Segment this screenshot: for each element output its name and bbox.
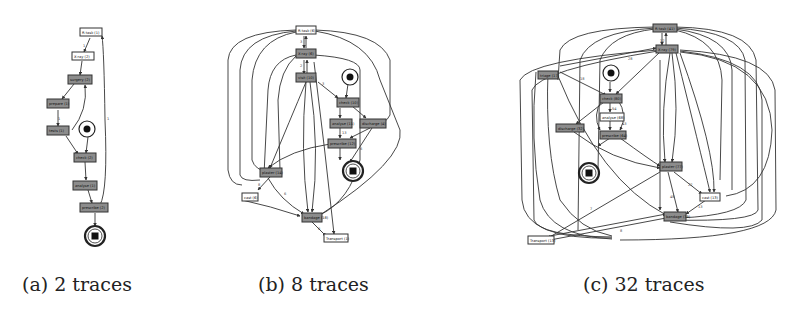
process-graph-a: 1 1 1 R-task (1) X-ray (2) surgery (2) p… <box>0 0 200 260</box>
svg-text:8: 8 <box>620 229 622 233</box>
svg-text:1: 1 <box>107 117 109 121</box>
node-b-8-label: cast (6) <box>244 196 258 200</box>
svg-text:12: 12 <box>660 39 664 43</box>
svg-text:43: 43 <box>622 122 626 126</box>
process-graph-b: 3 2 3 13 6 8 6 6 R-task (6) X-ray (6) vi… <box>200 0 460 260</box>
svg-text:3: 3 <box>322 82 324 86</box>
start-place-icon <box>603 65 619 81</box>
node-b-0-label: R-task (6) <box>298 29 316 33</box>
node-c-0-label: R-task (41) <box>655 27 675 31</box>
end-place-icon <box>343 161 363 181</box>
caption-c: (c) 32 traces <box>583 273 704 295</box>
node-a-6-label: analyse (1) <box>75 184 96 188</box>
node-a-5-label: check (2) <box>76 156 93 160</box>
svg-text:2: 2 <box>300 64 302 68</box>
node-c-2-label: triage (17) <box>540 74 560 78</box>
node-b-6-label: prescribe (12) <box>330 142 356 146</box>
node-c-3-label: check (80) <box>602 97 622 101</box>
svg-text:22: 22 <box>688 183 692 187</box>
node-c-8-label: cast (13) <box>702 196 719 200</box>
panel-b: 3 2 3 13 6 8 6 6 R-task (6) X-ray (6) vi… <box>200 0 460 319</box>
svg-text:6: 6 <box>284 192 286 196</box>
svg-text:28: 28 <box>628 57 632 61</box>
node-b-10-label: Transport (1) <box>325 237 350 241</box>
svg-text:18: 18 <box>580 77 584 81</box>
node-a-2-label: surgery (2) <box>70 78 90 82</box>
caption-b: (b) 8 traces <box>258 273 369 295</box>
node-b-5-label: discharge (4) <box>362 122 386 126</box>
end-place-icon <box>85 226 105 246</box>
node-b-2-label: visit (10) <box>298 76 315 80</box>
start-place-icon <box>342 69 358 85</box>
svg-text:13: 13 <box>342 131 346 135</box>
node-b-7-label: plaster (14) <box>262 171 284 175</box>
node-b-1-label: X-ray (6) <box>298 52 314 56</box>
caption-a: (a) 2 traces <box>22 273 132 295</box>
end-place-icon <box>579 163 599 183</box>
node-c-9-label: bandage (79) <box>666 215 691 219</box>
svg-text:8: 8 <box>258 183 260 187</box>
svg-text:54: 54 <box>612 107 617 111</box>
svg-text:1: 1 <box>58 117 60 121</box>
node-a-0-label: R-task (1) <box>82 31 100 35</box>
node-c-4-label: analyse (68) <box>602 116 625 120</box>
node-c-7-label: plaster (77) <box>662 165 684 169</box>
svg-text:13: 13 <box>698 205 702 209</box>
svg-text:3: 3 <box>300 40 302 44</box>
node-a-4-label: tests (1) <box>49 129 65 133</box>
svg-text:48: 48 <box>670 195 674 199</box>
svg-text:7: 7 <box>590 207 592 211</box>
svg-text:6: 6 <box>318 227 320 231</box>
node-a-3-label: prepare (1) <box>49 102 70 106</box>
node-b-4-label: analyse (11) <box>332 122 355 126</box>
svg-text:1: 1 <box>83 44 85 48</box>
node-c-10-label: Transport (13) <box>529 239 556 243</box>
node-c-5-label: discharge (32) <box>558 127 585 131</box>
node-b-9-label: bandage (18) <box>304 216 329 220</box>
panel-c: 12 18 28 54 43 22 48 7 8 13 R-task (41) … <box>500 0 796 319</box>
svg-text:6: 6 <box>360 147 362 151</box>
panel-a: 1 1 1 R-task (1) X-ray (2) surgery (2) p… <box>0 0 200 319</box>
node-c-1-label: X-ray (79) <box>658 48 677 52</box>
process-graph-c: 12 18 28 54 43 22 48 7 8 13 R-task (41) … <box>500 0 796 260</box>
start-place-icon <box>79 121 95 137</box>
node-c-6-label: prescribe (64) <box>602 134 628 138</box>
node-a-1-label: X-ray (2) <box>74 55 90 59</box>
node-a-7-label: prescribe (2) <box>82 206 106 210</box>
node-b-3-label: check (10) <box>339 101 359 105</box>
